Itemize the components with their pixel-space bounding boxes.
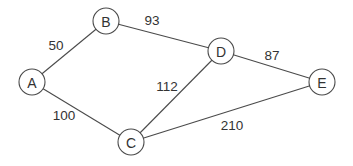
node-label: B <box>101 14 110 30</box>
edge-a-c <box>32 82 131 142</box>
edge-weight-d-e: 87 <box>264 48 279 63</box>
edge-weight-c-e: 210 <box>221 118 244 133</box>
edge-weight-c-d: 112 <box>156 79 178 94</box>
edge-weight-a-b: 50 <box>48 38 63 53</box>
node-a: A <box>19 69 45 95</box>
edge-b-d <box>106 21 221 51</box>
node-d: D <box>208 38 234 64</box>
edge-a-b <box>32 21 106 82</box>
node-e: E <box>309 69 335 95</box>
graph-diagram: 509310011287210 ABCDE <box>0 0 353 166</box>
edge-weight-a-c: 100 <box>53 108 76 123</box>
edge-labels-layer: 509310011287210 <box>48 13 279 133</box>
node-b: B <box>93 8 119 34</box>
node-label: E <box>317 75 326 91</box>
edge-weight-b-d: 93 <box>144 13 159 28</box>
node-label: C <box>126 135 136 151</box>
node-label: A <box>27 75 37 91</box>
node-label: D <box>216 44 226 60</box>
node-c: C <box>118 129 144 155</box>
